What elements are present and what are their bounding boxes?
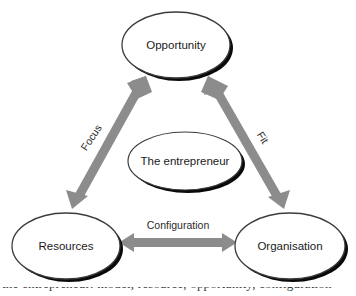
figure-caption-text: the entrepreneur: model, resource, oppor… [2,287,354,292]
node-organisation[interactable]: Organisation [235,213,348,282]
entrepreneur-model-diagram: Focus Fit Configuration Opportunity [0,0,356,296]
node-the-entrepreneur[interactable]: The entrepreneur [128,132,245,193]
edge-label-focus: Focus [78,122,104,152]
node-label-organisation: Organisation [257,240,322,252]
node-resources[interactable]: Resources [12,213,123,282]
node-label-opportunity: Opportunity [146,39,206,51]
edge-configuration-shaft [132,238,224,247]
edge-label-configuration: Configuration [147,219,210,231]
node-opportunity[interactable]: Opportunity [122,12,233,81]
node-label-resources: Resources [39,240,94,252]
edge-configuration: Configuration [119,219,237,252]
edge-label-fit: Fit [255,129,271,145]
diagram-canvas: Focus Fit Configuration Opportunity [0,0,356,296]
node-label-the-entrepreneur: The entrepreneur [141,155,230,167]
edge-focus: Focus [66,76,152,209]
figure-caption-clipped: the entrepreneur: model, resource, oppor… [0,287,356,296]
